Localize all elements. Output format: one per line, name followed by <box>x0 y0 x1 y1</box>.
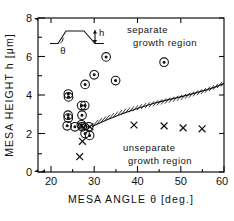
x-tick-label: 20 <box>45 175 57 187</box>
inset-h-label: h <box>99 27 104 38</box>
inset-theta-label: θ <box>60 45 65 56</box>
y-tick-label: 2 <box>26 128 32 140</box>
region-label-separate-line2: growth region <box>133 37 197 48</box>
x-tick-label: 60 <box>216 175 228 187</box>
region-label-separate-line1: separate <box>127 24 168 35</box>
x-tick-label: 50 <box>175 175 187 187</box>
figure-scatter-mesa: 0 2 4 6 8 20 30 40 50 60 MESA ANGLE θ [d… <box>0 0 234 221</box>
plot-svg: 0 2 4 6 8 20 30 40 50 60 MESA ANGLE θ [d… <box>0 0 234 221</box>
x-axis-label: MESA ANGLE θ [deg.] <box>68 193 194 205</box>
x-tick-labels: 20 30 40 50 60 <box>45 175 228 187</box>
y-tick-label: 8 <box>26 12 32 24</box>
y-axis-label: MESA HEIGHT h [μm] <box>3 33 15 157</box>
y-tick-label: 6 <box>26 51 32 63</box>
region-label-unseparate-line2: growth region <box>128 155 192 166</box>
y-tick-labels: 0 2 4 6 8 <box>26 12 32 178</box>
x-tick-label: 30 <box>88 175 100 187</box>
y-tick-label: 4 <box>26 89 32 101</box>
y-tick-label: 0 <box>26 166 32 178</box>
region-label-unseparate-line1: unseparate <box>123 142 176 153</box>
x-tick-label: 40 <box>131 175 143 187</box>
